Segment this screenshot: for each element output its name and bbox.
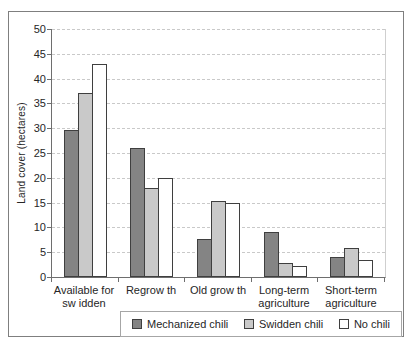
y-tick-label: 15 <box>18 196 46 210</box>
bar <box>130 148 145 277</box>
legend-marker <box>132 319 142 329</box>
legend-label: No chili <box>354 318 390 330</box>
bar <box>197 239 212 277</box>
y-tick-label: 0 <box>18 270 46 284</box>
gridline <box>52 54 385 55</box>
x-tick-mark <box>51 278 52 282</box>
legend-label: Swidden chili <box>259 318 323 330</box>
y-tick-label: 25 <box>18 146 46 160</box>
y-tick-label: 50 <box>18 22 46 36</box>
bar <box>144 188 159 277</box>
plot-area <box>51 29 386 278</box>
bar <box>64 130 79 277</box>
y-tick-label: 35 <box>18 96 46 110</box>
bar <box>92 64 107 277</box>
bar <box>292 266 307 277</box>
x-tick-mark <box>251 278 252 282</box>
bar <box>158 178 173 277</box>
y-tick-label: 20 <box>18 171 46 185</box>
legend: Mechanized chiliSwidden chiliNo chili <box>120 311 402 337</box>
x-tick-mark <box>384 278 385 282</box>
y-tick-label: 40 <box>18 72 46 86</box>
legend-item: Mechanized chili <box>132 318 228 330</box>
bar <box>278 263 293 277</box>
y-tick-label: 45 <box>18 47 46 61</box>
y-tick-label: 30 <box>18 121 46 135</box>
bar <box>225 203 240 277</box>
legend-label: Mechanized chili <box>147 318 228 330</box>
gridline <box>52 29 385 30</box>
chart-frame: Land cover (hectares) 051015202530354045… <box>8 11 404 337</box>
x-tick-mark <box>118 278 119 282</box>
bar <box>330 257 345 277</box>
y-tick-label: 5 <box>18 245 46 259</box>
bar <box>344 248 359 277</box>
bar <box>264 232 279 277</box>
bar <box>358 260 373 277</box>
legend-marker <box>244 319 254 329</box>
bar <box>78 93 93 277</box>
x-tick-mark <box>184 278 185 282</box>
legend-marker <box>339 319 349 329</box>
legend-item: No chili <box>339 318 390 330</box>
bar <box>211 201 226 277</box>
x-tick-mark <box>317 278 318 282</box>
y-tick-label: 10 <box>18 220 46 234</box>
x-category-label: Short-termagriculture <box>306 284 396 310</box>
legend-item: Swidden chili <box>244 318 323 330</box>
